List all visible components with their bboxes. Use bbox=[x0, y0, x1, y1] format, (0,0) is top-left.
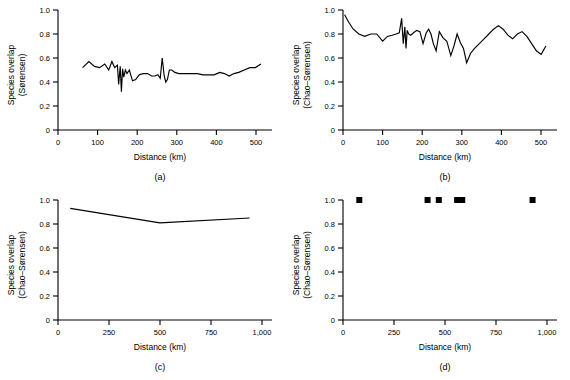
panel-b-ytick-3: 0.6 bbox=[325, 54, 335, 63]
panel-b-axes bbox=[343, 10, 557, 130]
panel-d-label: (d) bbox=[440, 362, 451, 372]
panel-b-xtick-4: 400 bbox=[495, 138, 508, 147]
panel-c-x-ticks: 0 250 500 750 1,000 bbox=[56, 320, 271, 337]
panel-c-ylabel-line1: Species overlap bbox=[6, 234, 16, 295]
panel-d-xlabel: Distance (km) bbox=[419, 342, 472, 352]
panel-b-xtick-3: 300 bbox=[456, 138, 469, 147]
panel-d-ylabel-line1: Species overlap bbox=[291, 234, 301, 295]
panel-a-ytick-2: 0.4 bbox=[40, 78, 50, 87]
panel-b-series bbox=[345, 15, 546, 63]
panel-b-label: (b) bbox=[440, 172, 451, 182]
panel-c-svg: Species overlap (Chao–Sørensen) 0 0.2 0.… bbox=[0, 190, 285, 380]
panel-c-ytick-3: 0.6 bbox=[40, 244, 50, 253]
panel-c-ytick-2: 0.4 bbox=[40, 268, 50, 277]
panel-d-ytick-2: 0.4 bbox=[325, 268, 335, 277]
panel-b-xtick-1: 100 bbox=[376, 138, 389, 147]
panel-d-y-ticks: 0 0.2 0.4 0.6 0.8 1.0 bbox=[325, 196, 343, 325]
panel-c-xtick-0: 0 bbox=[56, 328, 60, 337]
panel-a-svg: Species overlap (Sørensen) 0 0.2 0.4 0.6… bbox=[0, 0, 285, 190]
panel-a-ylabel-line2: (Sørensen) bbox=[17, 54, 27, 97]
panel-c-ytick-5: 1.0 bbox=[40, 196, 50, 205]
panel-d-x-ticks: 0 250 500 750 1,000 bbox=[341, 320, 556, 337]
panel-c-ylabel-line2: (Chao–Sørensen) bbox=[17, 231, 27, 299]
data-point-marker bbox=[530, 197, 536, 203]
panel-b-x-ticks: 0 100 200 300 400 500 bbox=[341, 130, 547, 147]
figure-canvas: Species overlap (Sørensen) 0 0.2 0.4 0.6… bbox=[0, 0, 570, 380]
panel-b-ytick-1: 0.2 bbox=[325, 102, 335, 111]
panel-d-ytick-4: 0.8 bbox=[325, 220, 335, 229]
panel-a-series bbox=[83, 58, 261, 92]
panel-a-xtick-1: 100 bbox=[91, 138, 104, 147]
panel-d-markers bbox=[356, 197, 535, 203]
panel-a-xtick-4: 400 bbox=[210, 138, 223, 147]
panel-b-ylabel-line1: Species overlap bbox=[291, 44, 301, 105]
panel-d: Species overlap (Chao–Sørensen) 0 0.2 0.… bbox=[285, 190, 570, 380]
panel-a-xtick-0: 0 bbox=[56, 138, 60, 147]
panel-b-xtick-2: 200 bbox=[416, 138, 429, 147]
panel-a-ylabel-line1: Species overlap bbox=[6, 44, 16, 105]
panel-c-xtick-2: 500 bbox=[154, 328, 167, 337]
panel-d-ytick-1: 0.2 bbox=[325, 292, 335, 301]
panel-b-xtick-5: 500 bbox=[535, 138, 548, 147]
panel-a-y-ticks: 0 0.2 0.4 0.6 0.8 1.0 bbox=[40, 6, 58, 135]
panel-d-ytick-0: 0 bbox=[331, 316, 335, 325]
panel-d-xtick-1: 250 bbox=[388, 328, 401, 337]
panel-d-xtick-0: 0 bbox=[341, 328, 345, 337]
panel-a-ytick-5: 1.0 bbox=[40, 6, 50, 15]
panel-a-ytick-1: 0.2 bbox=[40, 102, 50, 111]
panel-b: Species overlap (Chao–Sørensen) 0 0.2 0.… bbox=[285, 0, 570, 190]
panel-d-xtick-3: 750 bbox=[490, 328, 503, 337]
panel-b-ytick-2: 0.4 bbox=[325, 78, 335, 87]
panel-c-ytick-0: 0 bbox=[46, 316, 50, 325]
panel-d-ytick-5: 1.0 bbox=[325, 196, 335, 205]
panel-c-xlabel: Distance (km) bbox=[134, 342, 187, 352]
panel-a-x-ticks: 0 100 200 300 400 500 bbox=[56, 130, 262, 147]
panel-b-svg: Species overlap (Chao–Sørensen) 0 0.2 0.… bbox=[285, 0, 570, 190]
panel-d-ytick-3: 0.6 bbox=[325, 244, 335, 253]
panel-d-svg: Species overlap (Chao–Sørensen) 0 0.2 0.… bbox=[285, 190, 570, 380]
panel-d-xtick-2: 500 bbox=[439, 328, 452, 337]
panel-a-xtick-2: 200 bbox=[131, 138, 144, 147]
panel-a-label: (a) bbox=[155, 172, 166, 182]
panel-b-ylabel-line2: (Chao–Sørensen) bbox=[302, 41, 312, 109]
panel-a-xlabel: Distance (km) bbox=[134, 152, 187, 162]
data-point-marker bbox=[356, 197, 362, 203]
panel-a-ytick-0: 0 bbox=[46, 126, 50, 135]
panel-a-ytick-4: 0.8 bbox=[40, 30, 50, 39]
panel-a-xtick-3: 300 bbox=[171, 138, 184, 147]
panel-c-y-ticks: 0 0.2 0.4 0.6 0.8 1.0 bbox=[40, 196, 58, 325]
panel-c-label: (c) bbox=[155, 362, 166, 372]
panel-d-ylabel-line2: (Chao–Sørensen) bbox=[302, 231, 312, 299]
panel-d-xtick-4: 1,000 bbox=[538, 328, 557, 337]
panel-a-ytick-3: 0.6 bbox=[40, 54, 50, 63]
panel-b-ytick-0: 0 bbox=[331, 126, 335, 135]
data-point-marker bbox=[425, 197, 431, 203]
panel-c-xtick-4: 1,000 bbox=[253, 328, 272, 337]
panel-b-ytick-4: 0.8 bbox=[325, 30, 335, 39]
panel-c-series bbox=[70, 208, 249, 222]
panel-c-ytick-4: 0.8 bbox=[40, 220, 50, 229]
panel-a: Species overlap (Sørensen) 0 0.2 0.4 0.6… bbox=[0, 0, 285, 190]
panel-b-ytick-5: 1.0 bbox=[325, 6, 335, 15]
panel-c-ytick-1: 0.2 bbox=[40, 292, 50, 301]
panel-b-xtick-0: 0 bbox=[341, 138, 345, 147]
panel-b-y-ticks: 0 0.2 0.4 0.6 0.8 1.0 bbox=[325, 6, 343, 135]
data-point-marker bbox=[459, 197, 465, 203]
panel-d-axes bbox=[343, 200, 557, 320]
panel-c-xtick-1: 250 bbox=[103, 328, 116, 337]
data-point-marker bbox=[436, 197, 442, 203]
panel-b-xlabel: Distance (km) bbox=[419, 152, 472, 162]
panel-a-xtick-5: 500 bbox=[250, 138, 263, 147]
panel-a-axes bbox=[58, 10, 272, 130]
panel-c: Species overlap (Chao–Sørensen) 0 0.2 0.… bbox=[0, 190, 285, 380]
panel-c-xtick-3: 750 bbox=[205, 328, 218, 337]
